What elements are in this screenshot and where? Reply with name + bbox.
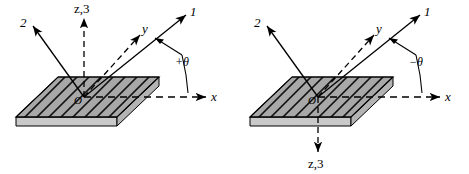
origin-label: O (74, 94, 82, 106)
axis-2-label: 2 (20, 15, 27, 30)
angle-label: +θ (175, 55, 189, 69)
axis-2-label: 2 (254, 15, 261, 30)
plate-front-edge (250, 117, 351, 126)
angle-label: −θ (409, 55, 423, 69)
positive-angle-diagram: z,3 1 2 y x +θ O (0, 0, 235, 174)
axis-y-label: y (374, 21, 382, 36)
plate-front-edge (16, 117, 117, 126)
negative-angle-diagram: z,3 1 2 y x −θ O (234, 0, 469, 174)
axis-y-label: y (140, 21, 148, 36)
origin-label: O (308, 94, 316, 106)
axis-z3-label: z,3 (308, 156, 324, 171)
axis-x-label: x (210, 89, 217, 104)
left-diagram-svg: z,3 1 2 y x +θ O (0, 0, 235, 174)
axis-x-label: x (444, 89, 451, 104)
figure-canvas: z,3 1 2 y x +θ O (0, 0, 469, 174)
axis-z3-label: z,3 (74, 1, 90, 16)
axis-1-label: 1 (190, 4, 197, 19)
axis-1-label: 1 (424, 4, 431, 19)
right-diagram-svg: z,3 1 2 y x −θ O (234, 0, 469, 174)
